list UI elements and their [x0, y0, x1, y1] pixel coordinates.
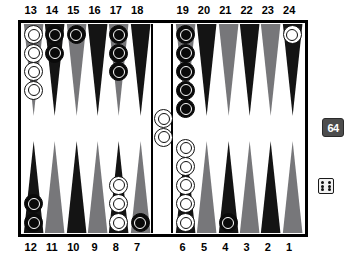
point-18[interactable]: [130, 24, 151, 116]
point-number-19: 19: [173, 2, 193, 18]
checker-black-point-19[interactable]: [176, 81, 195, 100]
point-9[interactable]: [87, 141, 108, 233]
board-frame: [18, 20, 308, 237]
point-number-9: 9: [85, 239, 105, 255]
point-23[interactable]: [260, 24, 281, 116]
point-number-24: 24: [279, 2, 299, 18]
point-number-23: 23: [258, 2, 278, 18]
point-number-18: 18: [127, 2, 147, 18]
checker-black-point-19[interactable]: [176, 44, 195, 63]
checker-white-point-6[interactable]: [176, 139, 195, 158]
checker-black-point-17[interactable]: [109, 44, 128, 63]
point-triangle-10: [66, 141, 87, 233]
bar-checker-white[interactable]: [154, 128, 173, 147]
point-number-22: 22: [237, 2, 257, 18]
die-pip: [321, 188, 324, 191]
point-22[interactable]: [239, 24, 260, 116]
quadrant-top-left: [23, 24, 151, 124]
point-number-7: 7: [127, 239, 147, 255]
point-11[interactable]: [44, 141, 65, 233]
point-triangle-11: [44, 141, 65, 233]
checker-white-point-6[interactable]: [176, 176, 195, 195]
quadrant-bottom-left: [23, 133, 151, 233]
checker-white-point-8[interactable]: [109, 176, 128, 195]
point-number-3: 3: [237, 239, 257, 255]
point-triangle-5: [196, 141, 217, 233]
point-triangle-1: [282, 141, 303, 233]
quadrant-bottom-right: [175, 133, 303, 233]
die-pip: [321, 185, 324, 188]
checker-white-point-24[interactable]: [283, 25, 302, 44]
point-triangle-21: [218, 24, 239, 116]
point-triangle-16: [87, 24, 108, 116]
die-pip: [328, 181, 331, 184]
point-16[interactable]: [87, 24, 108, 116]
die-pip: [328, 188, 331, 191]
checker-black-point-14[interactable]: [45, 44, 64, 63]
point-number-12: 12: [21, 239, 41, 255]
point-10[interactable]: [66, 141, 87, 233]
checker-white-point-13[interactable]: [24, 81, 43, 100]
board-inner: [21, 23, 305, 234]
checker-white-point-6[interactable]: [176, 213, 195, 232]
point-triangle-22: [239, 24, 260, 116]
point-number-14: 14: [42, 2, 62, 18]
point-number-11: 11: [42, 239, 62, 255]
point-triangle-9: [87, 141, 108, 233]
point-number-1: 1: [279, 239, 299, 255]
point-number-6: 6: [173, 239, 193, 255]
point-number-16: 16: [85, 2, 105, 18]
point-number-4: 4: [215, 239, 235, 255]
checker-white-point-13[interactable]: [24, 25, 43, 44]
point-triangle-23: [260, 24, 281, 116]
doubling-cube[interactable]: 64: [322, 118, 344, 137]
board-bar[interactable]: [151, 24, 173, 233]
point-triangle-2: [260, 141, 281, 233]
point-number-20: 20: [194, 2, 214, 18]
point-1[interactable]: [282, 141, 303, 233]
point-triangle-18: [130, 24, 151, 116]
point-number-8: 8: [106, 239, 126, 255]
die-pip: [321, 181, 324, 184]
point-21[interactable]: [218, 24, 239, 116]
point-number-13: 13: [21, 2, 41, 18]
checker-black-point-15[interactable]: [67, 25, 86, 44]
point-number-2: 2: [258, 239, 278, 255]
point-number-5: 5: [194, 239, 214, 255]
point-3[interactable]: [239, 141, 260, 233]
doubling-cube-value: 64: [327, 122, 338, 134]
bottom-point-numbers: 121110987654321: [0, 239, 335, 257]
point-number-17: 17: [106, 2, 126, 18]
top-point-numbers: 131415161718192021222324: [0, 2, 335, 20]
point-2[interactable]: [260, 141, 281, 233]
die-1[interactable]: [318, 178, 334, 194]
point-number-10: 10: [63, 239, 83, 255]
die-pip: [328, 185, 331, 188]
checker-black-point-19[interactable]: [176, 25, 195, 44]
point-5[interactable]: [196, 141, 217, 233]
point-triangle-3: [239, 141, 260, 233]
point-triangle-20: [196, 24, 217, 116]
dice-tray[interactable]: [318, 178, 335, 195]
checker-black-point-4[interactable]: [219, 213, 238, 232]
checker-white-point-13[interactable]: [24, 44, 43, 63]
bar-checker-white[interactable]: [154, 109, 173, 128]
point-number-15: 15: [63, 2, 83, 18]
point-20[interactable]: [196, 24, 217, 116]
checker-black-point-7[interactable]: [131, 213, 150, 232]
checker-black-point-12[interactable]: [24, 213, 43, 232]
point-number-21: 21: [215, 2, 235, 18]
quadrant-top-right: [175, 24, 303, 124]
